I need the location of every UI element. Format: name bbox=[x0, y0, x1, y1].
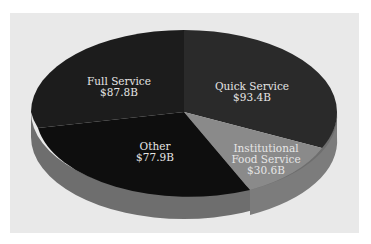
label-institutional-food-service: Institutional Food Service $30.6B bbox=[226, 143, 306, 176]
pie-chart bbox=[0, 0, 371, 244]
label-other-value: $77.9B bbox=[130, 152, 180, 163]
label-quick-service-value: $93.4B bbox=[212, 92, 292, 103]
label-other: Other $77.9B bbox=[130, 141, 180, 163]
label-full-service-value: $87.8B bbox=[84, 87, 154, 98]
label-institutional-value: $30.6B bbox=[226, 165, 306, 176]
label-quick-service: Quick Service $93.4B bbox=[212, 81, 292, 103]
label-full-service: Full Service $87.8B bbox=[84, 76, 154, 98]
